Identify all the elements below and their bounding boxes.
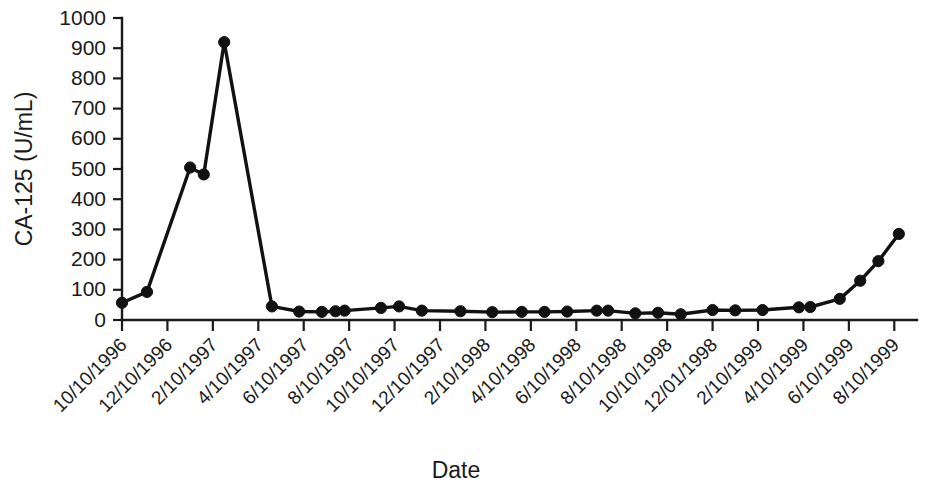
x-tick-group <box>122 320 894 331</box>
data-point-marker <box>455 306 466 317</box>
series-marker-group <box>116 37 904 320</box>
data-point-marker <box>185 162 196 173</box>
data-point-marker <box>562 306 573 317</box>
data-point-marker <box>602 305 613 316</box>
data-point-marker <box>416 305 427 316</box>
data-point-marker <box>116 297 127 308</box>
ca125-line-chart: 01002003004005006007008009001000 10/10/1… <box>0 0 945 498</box>
y-tick-group: 01002003004005006007008009001000 <box>59 6 122 331</box>
data-point-marker <box>893 228 904 239</box>
data-point-marker <box>294 306 305 317</box>
data-point-marker <box>539 306 550 317</box>
y-tick-label: 300 <box>71 217 106 240</box>
data-point-marker <box>316 306 327 317</box>
y-axis: 01002003004005006007008009001000 <box>59 6 122 331</box>
y-tick-label: 900 <box>71 36 106 59</box>
x-tick-labels: 10/10/199612/10/19962/10/19974/10/19976/… <box>49 334 903 416</box>
data-point-marker <box>793 302 804 313</box>
y-tick-label: 600 <box>71 126 106 149</box>
x-axis <box>122 320 917 331</box>
y-axis-title: CA-125 (U/mL) <box>11 92 37 247</box>
y-tick-label: 100 <box>71 277 106 300</box>
data-point-marker <box>141 286 152 297</box>
data-series-ca125 <box>116 37 904 320</box>
data-point-marker <box>855 275 866 286</box>
y-tick-label: 800 <box>71 66 106 89</box>
data-point-marker <box>375 302 386 313</box>
data-point-marker <box>198 169 209 180</box>
x-axis-title: Date <box>432 457 481 483</box>
y-tick-label: 1000 <box>59 6 106 29</box>
data-point-marker <box>805 301 816 312</box>
data-point-marker <box>652 307 663 318</box>
y-tick-label: 0 <box>94 308 106 331</box>
data-point-marker <box>339 305 350 316</box>
data-point-marker <box>266 301 277 312</box>
chart-canvas: 01002003004005006007008009001000 10/10/1… <box>0 0 945 498</box>
y-tick-label: 200 <box>71 247 106 270</box>
data-point-marker <box>675 309 686 320</box>
data-point-marker <box>487 307 498 318</box>
y-tick-label: 700 <box>71 96 106 119</box>
y-tick-label: 500 <box>71 157 106 180</box>
data-point-marker <box>873 256 884 267</box>
data-point-marker <box>516 306 527 317</box>
data-point-marker <box>591 305 602 316</box>
data-point-marker <box>394 301 405 312</box>
data-point-marker <box>219 37 230 48</box>
data-point-marker <box>707 304 718 315</box>
data-point-marker <box>757 304 768 315</box>
y-tick-label: 400 <box>71 187 106 210</box>
data-point-marker <box>834 293 845 304</box>
data-point-marker <box>630 308 641 319</box>
data-point-marker <box>730 305 741 316</box>
series-line-path <box>122 42 899 314</box>
